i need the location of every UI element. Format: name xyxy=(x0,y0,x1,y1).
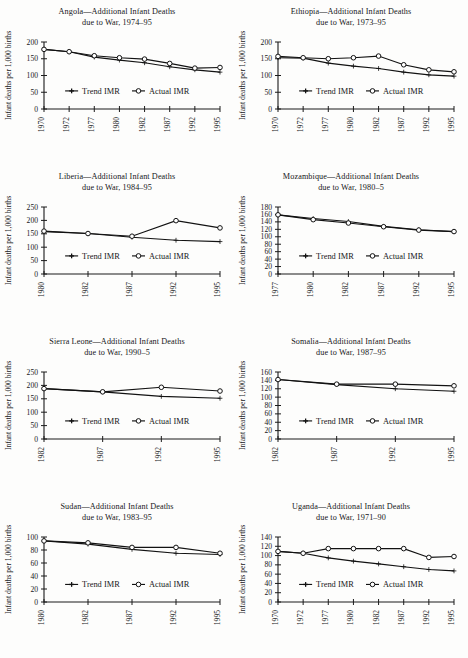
legend: Trend IMRActual IMR xyxy=(299,252,424,261)
data-point-marker-open xyxy=(376,54,381,59)
legend-item: Trend IMR xyxy=(299,87,354,96)
legend-marker-filled xyxy=(303,419,308,424)
x-tick-label: 1992 xyxy=(412,282,421,297)
x-tick-label: 1992 xyxy=(154,447,163,462)
y-tick-label: 120 xyxy=(261,542,273,551)
panel-title: Uganda—Additional Infant Deathsdue to Wa… xyxy=(234,502,468,523)
panel-title: Somalia—Additional Infant Deathsdue to W… xyxy=(234,337,468,358)
series-line xyxy=(278,215,454,232)
x-tick-label: 1987 xyxy=(397,610,406,625)
panel-title-line2: due to War, 1973–95 xyxy=(234,18,468,29)
legend-item: Trend IMR xyxy=(299,580,354,589)
chart-panel: Ethiopia—Additional Infant Deathsdue to … xyxy=(234,0,468,165)
x-tick-label: 1992 xyxy=(388,447,397,462)
legend-item: Trend IMR xyxy=(299,252,354,261)
legend-item: Trend IMR xyxy=(65,252,120,261)
legend-item: Actual IMR xyxy=(366,417,424,426)
legend-label: Actual IMR xyxy=(149,580,190,589)
y-tick-label: 100 xyxy=(27,533,39,542)
legend-item: Actual IMR xyxy=(132,417,190,426)
legend-label: Trend IMR xyxy=(316,580,354,589)
panel-title: Ethiopia—Additional Infant Deathsdue to … xyxy=(234,7,468,28)
legend-marker-filled xyxy=(303,89,308,94)
y-tick-label: 120 xyxy=(261,384,273,393)
x-tick-label: 1982 xyxy=(372,117,381,132)
data-point-marker-open xyxy=(401,62,406,67)
data-point-marker-filled xyxy=(326,555,331,560)
y-axis-label: Infant deaths per 1,000 births xyxy=(238,31,247,120)
y-tick-label: 100 xyxy=(261,393,273,402)
y-axis-label: Infant deaths per 1,000 births xyxy=(4,525,13,614)
x-tick-label: 1995 xyxy=(447,282,456,297)
y-axis-label: Infant deaths per 1,000 births xyxy=(4,31,13,120)
y-tick-label: 50 xyxy=(30,88,38,97)
y-tick-label: 100 xyxy=(27,243,39,252)
data-point-marker-filled xyxy=(218,239,223,244)
data-point-marker-open xyxy=(401,546,406,551)
legend-label: Trend IMR xyxy=(316,417,354,426)
x-tick-label: 1992 xyxy=(422,610,431,625)
x-tick-label: 1995 xyxy=(213,117,222,132)
data-point-marker-open xyxy=(218,389,223,394)
legend-item: Trend IMR xyxy=(299,417,354,426)
legend-marker-open xyxy=(136,89,141,94)
legend-item: Actual IMR xyxy=(366,87,424,96)
y-axis-label: Infant deaths per 1,000 births xyxy=(238,361,247,450)
y-tick-label: 40 xyxy=(264,418,272,427)
x-tick-label: 1980 xyxy=(306,282,315,297)
y-tick-label: 100 xyxy=(27,408,39,417)
y-tick-label: 150 xyxy=(27,394,39,403)
x-tick-label: 1987 xyxy=(96,447,105,462)
x-tick-label: 1987 xyxy=(330,447,339,462)
legend-marker-open xyxy=(136,419,141,424)
y-tick-label: 150 xyxy=(261,54,273,63)
x-tick-label: 1970 xyxy=(271,117,280,132)
y-tick-label: 60 xyxy=(30,559,38,568)
data-point-marker-open xyxy=(334,382,339,387)
y-tick-label: 0 xyxy=(34,598,38,607)
data-point-marker-filled xyxy=(426,567,431,572)
data-point-marker-open xyxy=(276,54,281,59)
x-tick-label: 1977 xyxy=(321,117,330,132)
y-tick-label: 200 xyxy=(261,38,273,47)
data-point-marker-open xyxy=(100,390,105,395)
legend-marker-filled xyxy=(69,254,74,259)
legend-label: Trend IMR xyxy=(316,252,354,261)
data-point-marker-open xyxy=(42,229,47,234)
y-axis-label: Infant deaths per 1,000 births xyxy=(238,525,247,614)
y-tick-label: 140 xyxy=(261,533,273,542)
y-tick-label: 0 xyxy=(268,435,272,444)
y-tick-label: 0 xyxy=(268,105,272,114)
legend-label: Trend IMR xyxy=(82,580,120,589)
legend-label: Trend IMR xyxy=(316,87,354,96)
x-tick-label: 1982 xyxy=(81,610,90,625)
panel-title-line1: Angola—Additional Infant Deaths xyxy=(59,7,176,16)
x-tick-label: 1995 xyxy=(447,117,456,132)
panel-title-line1: Sierra Leone—Additional Infant Deaths xyxy=(49,337,184,346)
data-point-marker-open xyxy=(326,546,331,551)
data-point-marker-filled xyxy=(218,396,223,401)
chart-panel: Sierra Leone—Additional Infant Deathsdue… xyxy=(0,330,234,495)
y-axis-label: Infant deaths per 1,000 births xyxy=(4,361,13,450)
x-tick-label: 1982 xyxy=(138,117,147,132)
legend-item: Actual IMR xyxy=(366,580,424,589)
data-point-marker-open xyxy=(301,55,306,60)
y-tick-label: 180 xyxy=(261,203,273,212)
panel-title-line2: due to War, 1987–95 xyxy=(234,348,468,359)
data-point-marker-open xyxy=(117,55,122,60)
y-tick-label: 40 xyxy=(264,579,272,588)
y-tick-label: 250 xyxy=(27,203,39,212)
y-axis-label: Infant deaths per 1,000 births xyxy=(238,196,247,285)
legend-label: Actual IMR xyxy=(383,252,424,261)
data-point-marker-open xyxy=(67,49,72,54)
panel-title-line2: due to War, 1980–5 xyxy=(234,183,468,194)
data-point-marker-open xyxy=(351,546,356,551)
data-point-marker-open xyxy=(301,551,306,556)
legend-marker-filled xyxy=(303,254,308,259)
axis-lines xyxy=(44,372,220,439)
legend-label: Trend IMR xyxy=(82,87,120,96)
data-point-marker-open xyxy=(86,541,91,546)
chart-panel: Sudan—Additional Infant Deathsdue to War… xyxy=(0,495,234,658)
legend-label: Actual IMR xyxy=(149,87,190,96)
panel-title-line1: Liberia—Additional Infant Deaths xyxy=(59,172,175,181)
